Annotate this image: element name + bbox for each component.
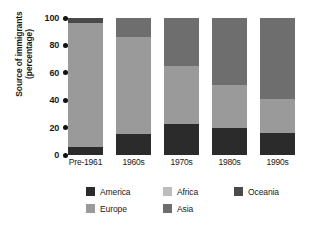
bar-segment-europe[interactable] — [164, 66, 199, 124]
y-axis-title-line-1: Source of immigrants — [14, 11, 25, 96]
legend-item-africa[interactable]: Africa — [163, 186, 198, 197]
bar-segment-asia[interactable] — [116, 18, 151, 37]
y-axis-tick: 20 — [49, 123, 68, 133]
legend-item-europe[interactable]: Europe — [86, 203, 127, 214]
y-axis-tick-label: 60 — [49, 68, 59, 78]
y-axis-tick: 60 — [49, 68, 68, 78]
y-axis: 020406080100 — [30, 0, 68, 165]
x-axis-label-1990s: 1990s — [252, 157, 304, 167]
legend-swatch-europe — [86, 204, 95, 213]
bar-segment-europe[interactable] — [68, 23, 103, 146]
legend-label-oceania: Oceania — [248, 187, 279, 197]
bar-segment-asia[interactable] — [212, 18, 247, 85]
legend-swatch-oceania — [234, 187, 243, 196]
bar-segment-asia[interactable] — [260, 18, 295, 99]
bar-pre-1961[interactable] — [68, 18, 103, 155]
legend-label-asia: Asia — [177, 204, 193, 214]
bar-segment-america[interactable] — [164, 124, 199, 156]
legend-label-africa: Africa — [177, 187, 198, 197]
bar-1960s[interactable] — [116, 18, 151, 155]
x-axis-label-1960s: 1960s — [108, 157, 160, 167]
y-axis-tick: 40 — [49, 95, 68, 105]
chart-legend: AmericaAfricaOceaniaEuropeAsia — [86, 186, 301, 218]
y-axis-tick: 80 — [49, 40, 68, 50]
legend-item-asia[interactable]: Asia — [163, 203, 193, 214]
x-axis-label-1980s: 1980s — [204, 157, 256, 167]
x-axis-label-pre-1961: Pre-1961 — [60, 157, 112, 167]
bar-segment-asia[interactable] — [164, 18, 199, 66]
bar-1970s[interactable] — [164, 18, 199, 155]
bar-segment-europe[interactable] — [212, 85, 247, 127]
y-axis-tick-label: 20 — [49, 123, 59, 133]
stacked-bar-chart: Source of immigrants (percentage) 020406… — [0, 0, 314, 225]
x-axis: Pre-19611960s1970s1980s1990s — [68, 157, 294, 171]
y-axis-tick-label: 0 — [54, 150, 59, 160]
x-axis-label-1970s: 1970s — [156, 157, 208, 167]
bar-segment-europe[interactable] — [260, 99, 295, 133]
bar-segment-america[interactable] — [212, 128, 247, 155]
legend-label-europe: Europe — [100, 204, 127, 214]
legend-swatch-asia — [163, 204, 172, 213]
bar-segment-america[interactable] — [68, 147, 103, 155]
legend-label-america: America — [100, 187, 130, 197]
legend-item-america[interactable]: America — [86, 186, 130, 197]
plot-area — [68, 18, 294, 155]
bar-segment-america[interactable] — [260, 133, 295, 155]
y-axis-tick-label: 40 — [49, 95, 59, 105]
legend-item-oceania[interactable]: Oceania — [234, 186, 279, 197]
y-axis-tick: 100 — [45, 13, 68, 23]
y-axis-tick-label: 100 — [45, 13, 59, 23]
legend-swatch-america — [86, 187, 95, 196]
bar-1990s[interactable] — [260, 18, 295, 155]
bar-1980s[interactable] — [212, 18, 247, 155]
legend-swatch-africa — [163, 187, 172, 196]
y-axis-tick-label: 80 — [49, 40, 59, 50]
bar-segment-europe[interactable] — [116, 37, 151, 134]
bar-segment-oceania[interactable] — [68, 18, 103, 23]
bar-segment-america[interactable] — [116, 134, 151, 155]
